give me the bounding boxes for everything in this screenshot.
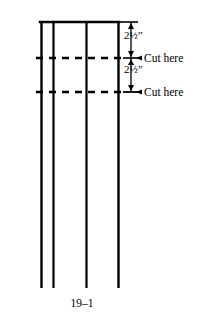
technical-drawing [0,0,197,324]
dimension-label-top: 2½” [124,30,143,41]
dimension-label-bottom: 2½” [124,64,143,75]
cut-here-label-top: Cut here [144,53,183,65]
figure-container: 2½” 2½” Cut here Cut here 19–1 [0,0,197,324]
dimension-arrow-down-top [128,51,134,57]
leader-arrow-cut-2 [136,89,142,94]
figure-caption: 19–1 [52,298,112,310]
cut-here-label-bottom: Cut here [144,87,183,99]
leader-arrow-cut-1 [136,55,142,60]
dimension-arrow-down-bottom [128,85,134,91]
